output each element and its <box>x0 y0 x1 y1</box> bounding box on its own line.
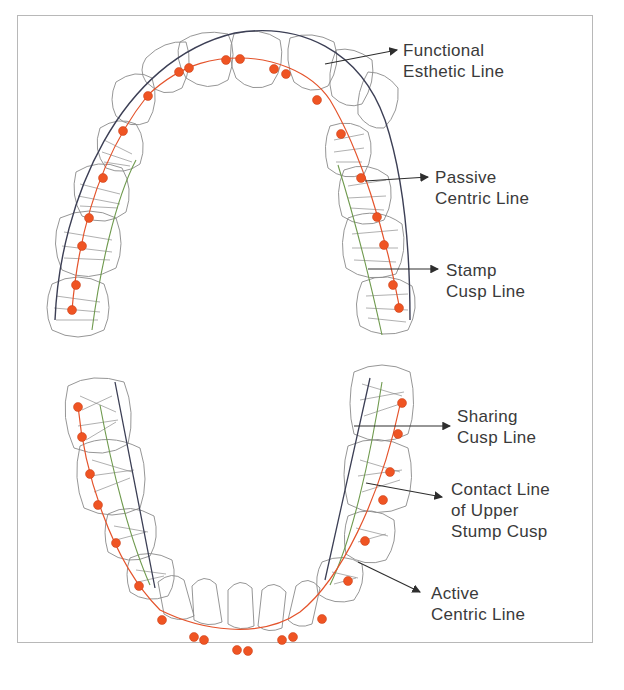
upper-functional-esthetic-line <box>55 31 410 320</box>
label-line: Contact Line <box>451 479 550 500</box>
label-functional-esthetic-line: Functional Esthetic Line <box>403 40 504 82</box>
label-passive-centric-line: Passive Centric Line <box>435 167 529 209</box>
upper-stamp-cusp-line <box>92 160 382 335</box>
label-line: Cusp Line <box>446 281 525 302</box>
lower-contact-line-upper-stump-cusp <box>100 382 382 585</box>
lower-sharing-cusp-line <box>115 378 370 588</box>
label-line: Stamp <box>446 260 525 281</box>
label-active-centric-line: Active Centric Line <box>431 583 525 625</box>
label-line: of Upper <box>451 500 550 521</box>
label-line: Centric Line <box>435 188 529 209</box>
label-sharing-cusp-line: Sharing Cusp Line <box>457 406 536 448</box>
upper-contact-points <box>68 55 404 315</box>
upper-arch <box>47 31 415 337</box>
label-line: Passive <box>435 167 529 188</box>
lower-arch <box>65 365 413 631</box>
label-line: Esthetic Line <box>403 61 504 82</box>
label-line: Sharing <box>457 406 536 427</box>
label-line: Stump Cusp <box>451 521 550 542</box>
label-line: Centric Line <box>431 604 525 625</box>
label-contact-line-upper-stump-cusp: Contact Line of Upper Stump Cusp <box>451 479 550 542</box>
label-stamp-cusp-line: Stamp Cusp Line <box>446 260 525 302</box>
dental-arches-diagram <box>0 0 624 690</box>
upper-passive-centric-line <box>72 58 400 310</box>
label-line: Functional <box>403 40 504 61</box>
label-line: Cusp Line <box>457 427 536 448</box>
label-line: Active <box>431 583 525 604</box>
